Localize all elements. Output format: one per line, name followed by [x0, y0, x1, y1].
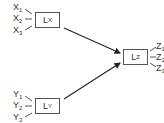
indicator-z3: Z3 — [156, 64, 164, 76]
indicator-x3: X3 — [13, 26, 22, 38]
latent-node-ly: LY — [35, 98, 60, 114]
arrow-ly-to-lz — [64, 63, 120, 99]
latent-node-lz: LZ — [123, 49, 148, 65]
indicator-y3: Y3 — [13, 113, 22, 123]
arrow-lx-to-lz — [64, 28, 120, 53]
latent-node-lx: LX — [35, 12, 60, 28]
